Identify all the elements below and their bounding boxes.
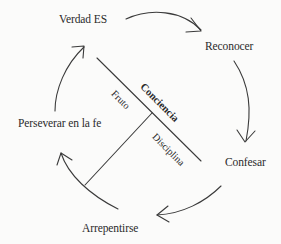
node-verdad-es: Verdad ES — [59, 13, 107, 25]
node-confesar: Confesar — [225, 156, 266, 168]
arrow-perseverar-to-verdad — [55, 47, 84, 111]
node-perseverar: Perseverar en la fe — [18, 117, 101, 129]
node-reconocer: Reconocer — [205, 40, 253, 52]
arrow-reconocer-to-confesar — [234, 61, 249, 141]
conciencia-axis-line — [97, 58, 201, 161]
arrowhead-verdad-icon — [72, 46, 84, 58]
node-arrepentirse: Arrepentirse — [82, 222, 138, 234]
arrow-arrepentirse-to-perseverar — [61, 153, 118, 209]
diagram-canvas: Verdad ES Reconocer Confesar Arrepentirs… — [0, 0, 281, 244]
arrowhead-confesar-icon — [237, 130, 255, 142]
arrow-verdad-to-reconocer — [126, 12, 201, 30]
arrow-confesar-to-arrepentirse — [157, 186, 221, 215]
arrowhead-perseverar-icon — [57, 153, 72, 165]
